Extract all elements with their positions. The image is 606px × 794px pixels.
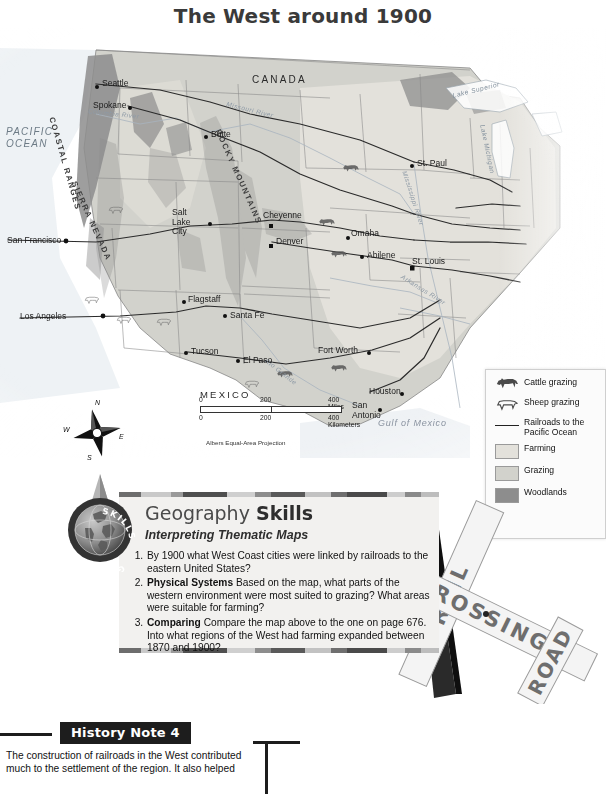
map-city-houston: Houston (369, 386, 401, 396)
farming-swatch-icon (493, 443, 521, 459)
scale-bar-graphic (200, 406, 342, 413)
legend-label-sheep-grazing: Sheep grazing (521, 397, 579, 407)
legend-label-cattle-grazing: Cattle grazing (521, 377, 577, 387)
map-city-st-paul: St. Paul (417, 158, 447, 168)
map-label-gulf-of-mexico: Gulf of Mexico (378, 418, 447, 428)
compass-n: N (95, 399, 100, 406)
map-city-santa-fe: Santa Fe (230, 310, 265, 320)
map-city-tucson: Tucson (191, 346, 219, 356)
scale-km-200: 200 (260, 414, 271, 421)
scale-km-0: 0 (199, 414, 203, 421)
sheep-icon (493, 397, 521, 411)
map-label-pacific-ocean: PACIFIC OCEAN (6, 126, 53, 150)
map-city-abilene: Abilene (367, 250, 395, 260)
scale-miles-0: 0 (199, 396, 203, 403)
legend-label-railroads: Railroads to the Pacific Ocean (521, 417, 584, 437)
geo-decorative-bar-top (119, 492, 439, 497)
map-city-denver: Denver (276, 236, 303, 246)
legend-item-cattle-grazing: Cattle grazing (493, 377, 599, 391)
legend-label-woodlands: Woodlands (521, 487, 567, 497)
geo-question-1: By 1900 what West Coast cities were link… (146, 550, 430, 575)
geography-skills-subtitle: Interpreting Thematic Maps (145, 528, 308, 542)
history-note-body: The construction of railroads in the Wes… (6, 749, 268, 775)
map-projection-note: Albers Equal-Area Projection (206, 439, 285, 446)
compass-s: S (87, 454, 92, 461)
history-note-rule-left (0, 733, 52, 736)
geography-skills-feature: SKILLS GEOGRAPHY Geography Skills Interp… (57, 492, 439, 658)
geo-question-2: Physical Systems Based on the map, what … (146, 577, 430, 615)
geo-title-regular: Geography (145, 502, 256, 524)
legend-item-farming: Farming (493, 443, 599, 459)
scale-miles-200: 200 (260, 396, 271, 403)
legend-item-sheep-grazing: Sheep grazing (493, 397, 599, 411)
legend-item-railroads: Railroads to the Pacific Ocean (493, 417, 599, 437)
map-city-spokane: Spokane (93, 100, 127, 110)
scale-km-400: 400 Kilometers (328, 414, 360, 428)
map-city-san-francisco: San Francisco (7, 235, 61, 245)
compass-e: E (119, 433, 124, 440)
geo-question-1-text: By 1900 what West Coast cities were link… (147, 550, 428, 574)
map-city-el-paso: El Paso (243, 355, 272, 365)
history-note-badge: History Note 4 (60, 722, 191, 744)
geo-question-3-lead: Comparing (147, 617, 201, 628)
history-note-feature: History Note 4 The construction of railr… (0, 722, 300, 794)
page-title: The West around 1900 (0, 4, 606, 28)
map-scale-bar: 0 200 400 Miles 0 200 400 Kilometers (200, 396, 342, 423)
geography-skills-questions: By 1900 what West Coast cities were link… (130, 550, 430, 657)
map-city-butte: Butte (211, 129, 231, 139)
cattle-icon (493, 377, 521, 391)
map-city-seattle: Seattle (102, 78, 128, 88)
railroad-line-icon (493, 417, 521, 426)
legend-label-grazing: Grazing (521, 465, 554, 475)
history-note-rule-right (253, 741, 300, 744)
compass-rose: N S E W (62, 398, 132, 468)
map-city-salt-lake-city: SaltLakeCity (172, 208, 190, 237)
legend-label-farming: Farming (521, 443, 556, 453)
map-city-omaha: Omaha (351, 228, 379, 238)
map-label-canada: CANADA (252, 74, 307, 85)
map-city-fort-worth: Fort Worth (318, 345, 358, 355)
map-city-cheyenne: Cheyenne (263, 210, 302, 220)
map-city-los-angeles: Los Angeles (20, 311, 66, 321)
compass-w: W (63, 426, 70, 433)
map-figure: CANADA MEXICO PACIFIC OCEAN Gulf of Mexi… (0, 28, 606, 458)
grazing-swatch-icon (493, 465, 521, 481)
map-city-flagstaff: Flagstaff (188, 294, 220, 304)
geo-title-bold: Skills (256, 502, 313, 524)
legend-item-grazing: Grazing (493, 465, 599, 481)
geo-question-2-lead: Physical Systems (147, 577, 233, 588)
geography-skills-title: Geography Skills (145, 502, 313, 524)
map-city-st-louis: St. Louis (412, 256, 445, 266)
textbook-page: The West around 1900 (0, 0, 606, 794)
geo-question-3: Comparing Compare the map above to the o… (146, 617, 430, 655)
